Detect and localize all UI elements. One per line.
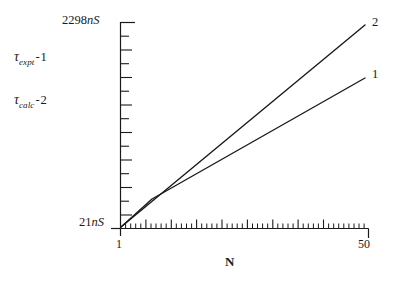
x-axis-max-label: 50 [358, 238, 370, 250]
series-end-label-1: 1 [372, 68, 378, 81]
plot-area [0, 0, 398, 283]
y-axis-min-value: 21 [79, 215, 92, 229]
y-axis-max-label: 2298nS [62, 14, 100, 27]
series-end-label-2: 2 [372, 16, 378, 29]
legend-item-tau-calc: τcalc-2 [14, 93, 106, 110]
chart-figure: τexpt-1 τcalc-2 2298nS 21nS 1 50 N 2 1 [0, 0, 398, 283]
y-axis-min-label: 21nS [79, 216, 104, 229]
legend-index-2: 2 [41, 93, 47, 107]
y-axis-max-value: 2298 [62, 13, 87, 27]
y-axis-min-unit: nS [92, 215, 105, 229]
legend-item-tau-expt: τexpt-1 [14, 50, 106, 67]
x-axis-title: N [225, 255, 234, 268]
x-axis-min-label: 1 [116, 238, 122, 250]
legend-index-1: 1 [41, 50, 47, 64]
legend: τexpt-1 τcalc-2 [14, 50, 106, 109]
legend-subscript-calc: calc [19, 99, 34, 109]
plot-background [0, 0, 398, 283]
y-axis-max-unit: nS [87, 13, 100, 27]
legend-subscript-expt: expt [19, 57, 34, 67]
